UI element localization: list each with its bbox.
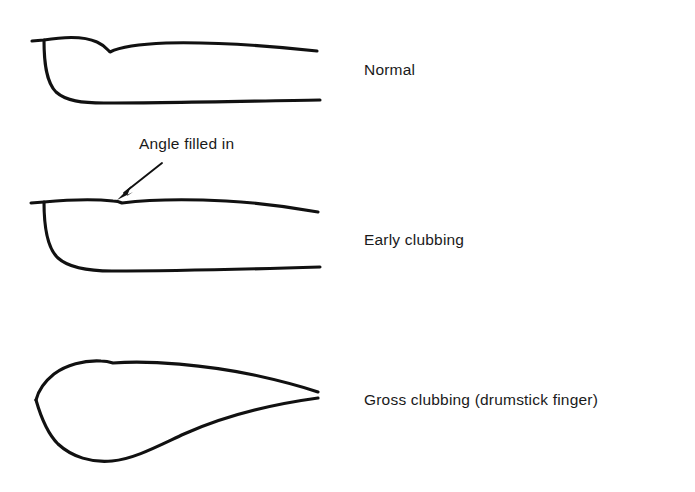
gross-nail-contour [36,361,318,400]
clubbing-diagram: Angle filled in Normal Early clubbing Gr… [0,0,695,492]
panel-label-early-clubbing: Early clubbing [364,231,464,249]
finger-profile-early-clubbing [31,200,320,271]
panel-label-normal: Normal [364,61,415,79]
early-skin-contour [44,202,320,271]
finger-profiles-drawing [0,0,695,492]
gross-skin-contour [36,398,318,461]
finger-profile-normal [32,38,320,103]
panel-label-gross-clubbing: Gross clubbing (drumstick finger) [364,391,598,409]
annotation-label-angle-filled-in: Angle filled in [139,135,234,153]
finger-profile-gross-clubbing [36,361,318,462]
normal-skin-contour [44,40,320,103]
angle-filled-in-arrow [117,163,162,200]
early-nail-contour [31,200,318,212]
normal-nail-contour [32,38,317,52]
